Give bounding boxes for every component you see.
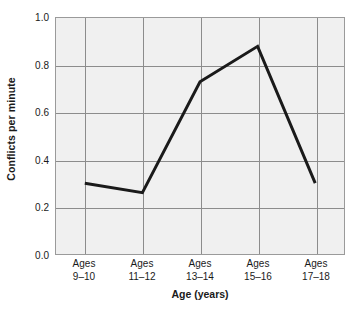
x-tick-label-line2: 13–14 xyxy=(186,271,214,284)
x-axis-tick-label: Ages15–16 xyxy=(244,258,272,283)
x-tick-label-line1: Ages xyxy=(73,258,96,269)
x-axis-tick-label: Ages9–10 xyxy=(73,258,96,283)
data-polyline xyxy=(85,46,315,192)
x-axis-tick-label: Ages13–14 xyxy=(186,258,214,283)
x-tick-label-line2: 15–16 xyxy=(244,271,272,284)
y-axis-tick-label: 1.0 xyxy=(35,12,49,23)
y-axis-tick-label: 0.0 xyxy=(35,250,49,261)
x-axis-tick-labels: Ages9–10Ages11–12Ages13–14Ages15–16Ages1… xyxy=(55,258,345,286)
y-axis-title: Conflicts per minute xyxy=(0,0,22,258)
line-chart-figure: Conflicts per minute 0.00.20.40.60.81.0 … xyxy=(0,0,357,312)
x-tick-label-line2: 11–12 xyxy=(128,271,155,284)
x-axis-tick-label: Ages17–18 xyxy=(302,258,330,283)
y-axis-tick-label: 0.2 xyxy=(35,202,49,213)
y-axis-tick-label: 0.6 xyxy=(35,107,49,118)
data-series-line xyxy=(56,18,344,254)
x-tick-label-line2: 9–10 xyxy=(73,271,96,284)
y-axis-tick-labels: 0.00.20.40.60.81.0 xyxy=(22,17,53,255)
y-axis-tick-label: 0.8 xyxy=(35,59,49,70)
x-axis-tick-label: Ages11–12 xyxy=(128,258,155,283)
x-tick-label-line1: Ages xyxy=(131,258,154,269)
y-axis-tick-label: 0.4 xyxy=(35,154,49,165)
x-tick-label-line1: Ages xyxy=(247,258,270,269)
y-axis-title-text: Conflicts per minute xyxy=(5,77,17,181)
x-tick-label-line2: 17–18 xyxy=(302,271,330,284)
x-axis-title: Age (years) xyxy=(55,288,345,300)
x-tick-label-line1: Ages xyxy=(305,258,328,269)
x-tick-label-line1: Ages xyxy=(189,258,212,269)
plot-area xyxy=(55,17,345,255)
